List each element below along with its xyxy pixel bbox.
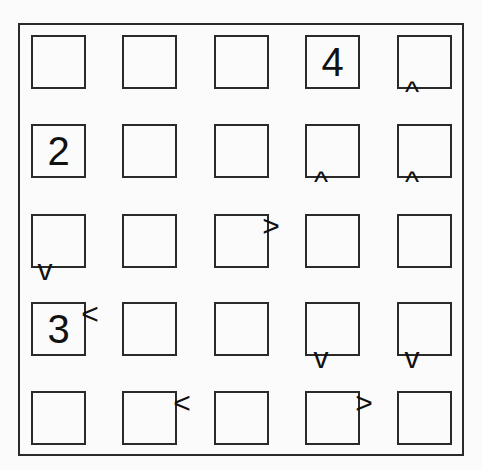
greater-than-down-icon: v [306, 343, 336, 373]
cell-r4c4[interactable] [397, 391, 452, 445]
less-than-icon: < [75, 299, 105, 329]
cell-r1c2[interactable] [214, 124, 269, 178]
cell-r0c0[interactable] [31, 35, 86, 89]
greater-than-down-icon: v [30, 255, 60, 285]
less-than-up-icon: ^ [397, 167, 427, 197]
cell-r4c0[interactable] [31, 391, 86, 445]
cell-r0c2[interactable] [214, 35, 269, 89]
cell-r0c3[interactable]: 4 [305, 35, 360, 89]
cell-r2c3[interactable] [305, 214, 360, 268]
cell-r4c2[interactable] [214, 391, 269, 445]
less-than-icon: < [167, 388, 197, 418]
cell-r2c4[interactable] [397, 214, 452, 268]
cell-r1c0[interactable]: 2 [31, 124, 86, 178]
cell-r1c1[interactable] [122, 124, 177, 178]
cell-r3c1[interactable] [122, 302, 177, 356]
greater-than-down-icon: v [397, 343, 427, 373]
cell-r3c2[interactable] [214, 302, 269, 356]
greater-than-icon: > [349, 388, 379, 418]
cell-r0c1[interactable] [122, 35, 177, 89]
less-than-up-icon: ^ [397, 77, 427, 107]
cell-r2c1[interactable] [122, 214, 177, 268]
greater-than-icon: > [256, 211, 286, 241]
less-than-up-icon: ^ [306, 167, 336, 197]
